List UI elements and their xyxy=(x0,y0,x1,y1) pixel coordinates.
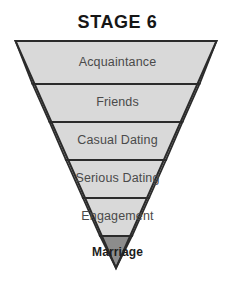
funnel-segment-4[interactable] xyxy=(66,160,166,198)
funnel-segments xyxy=(16,41,217,268)
funnel-segment-2[interactable] xyxy=(33,84,200,122)
funnel-segment-1[interactable] xyxy=(16,41,217,84)
funnel-diagram: STAGE 6 Acquaintance Friends Casual Dati… xyxy=(0,0,235,293)
funnel-segment-3[interactable] xyxy=(50,122,183,160)
funnel-shape xyxy=(0,0,235,293)
